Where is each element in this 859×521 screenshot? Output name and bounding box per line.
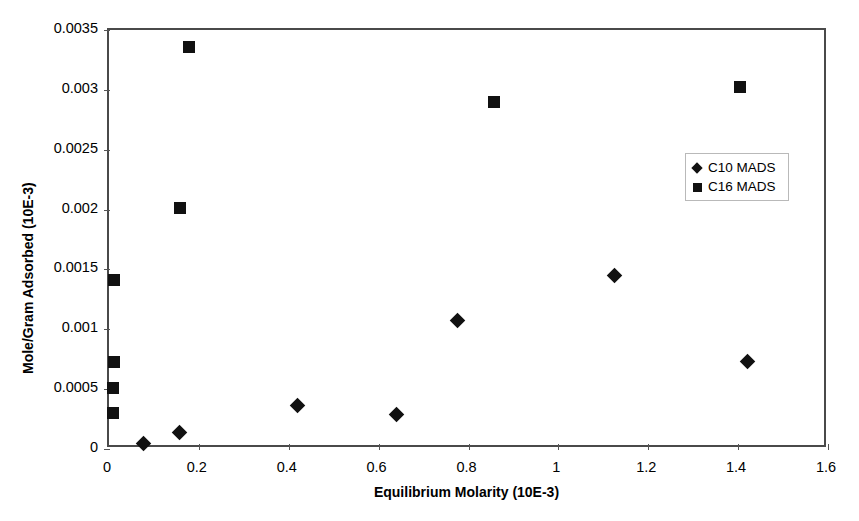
data-point-diamond bbox=[739, 354, 755, 370]
y-axis-tick bbox=[104, 389, 110, 390]
data-point-diamond bbox=[171, 424, 187, 440]
x-axis-tick-label: 1.2 bbox=[616, 460, 676, 475]
data-point-square bbox=[108, 274, 120, 286]
y-axis-tick bbox=[104, 449, 110, 450]
y-axis-tick-label: 0.0005 bbox=[12, 380, 98, 395]
data-point-diamond bbox=[607, 268, 623, 284]
y-axis-tick bbox=[104, 90, 110, 91]
data-point-diamond bbox=[389, 407, 405, 423]
y-axis-tick-label: 0.003 bbox=[12, 81, 98, 96]
y-axis-tick bbox=[104, 30, 110, 31]
legend-label-c16: C16 MADS bbox=[708, 180, 776, 194]
legend-item-c10[interactable]: C10 MADS bbox=[691, 158, 784, 177]
legend-item-c16[interactable]: C16 MADS bbox=[691, 177, 784, 196]
diamond-marker-icon bbox=[691, 161, 705, 175]
y-axis-tick-label: 0.002 bbox=[12, 201, 98, 216]
data-point-diamond bbox=[449, 313, 465, 329]
x-axis-tick-label: 0.4 bbox=[257, 460, 317, 475]
y-axis-tick bbox=[104, 210, 110, 211]
data-point-square bbox=[108, 356, 120, 368]
y-axis-tick bbox=[104, 269, 110, 270]
x-axis-tick bbox=[558, 444, 559, 450]
data-point-square bbox=[734, 81, 746, 93]
y-axis-tick-label: 0.0025 bbox=[12, 141, 98, 156]
y-axis-tick-label: 0.0035 bbox=[12, 21, 98, 36]
data-point-square bbox=[183, 41, 195, 53]
x-axis-tick bbox=[379, 444, 380, 450]
data-point-diamond bbox=[135, 435, 151, 451]
y-axis-tick-label: 0.001 bbox=[12, 320, 98, 335]
scatter-chart: Mole/Gram Adsorbed (10E-3) 00.00050.0010… bbox=[0, 0, 859, 521]
y-axis-tick-label: 0 bbox=[12, 440, 98, 455]
square-marker-icon bbox=[691, 180, 705, 194]
data-point-square bbox=[174, 202, 186, 214]
x-axis-tick bbox=[469, 444, 470, 450]
x-axis-tick-label: 0.2 bbox=[167, 460, 227, 475]
data-point-square bbox=[107, 407, 119, 419]
legend[interactable]: C10 MADS C16 MADS bbox=[685, 153, 789, 201]
x-axis-tick bbox=[289, 444, 290, 450]
plot-area: C10 MADS C16 MADS bbox=[107, 28, 826, 447]
x-axis-tick-label: 1 bbox=[526, 460, 586, 475]
data-point-square bbox=[107, 382, 119, 394]
x-axis-tick-label: 0.6 bbox=[347, 460, 407, 475]
legend-label-c10: C10 MADS bbox=[708, 161, 776, 175]
x-axis-tick bbox=[738, 444, 739, 450]
y-axis-tick-label: 0.0015 bbox=[12, 260, 98, 275]
x-axis-tick-label: 0.8 bbox=[437, 460, 497, 475]
x-axis-title: Equilibrium Molarity (10E-3) bbox=[107, 484, 826, 500]
data-point-diamond bbox=[290, 398, 306, 414]
x-axis-tick bbox=[828, 444, 829, 450]
y-axis-tick bbox=[104, 329, 110, 330]
data-point-square bbox=[488, 96, 500, 108]
x-axis-tick bbox=[199, 444, 200, 450]
x-axis-tick-label: 1.6 bbox=[796, 460, 856, 475]
x-axis-tick-label: 0 bbox=[77, 460, 137, 475]
y-axis-tick bbox=[104, 150, 110, 151]
x-axis-tick-label: 1.4 bbox=[706, 460, 766, 475]
x-axis-tick bbox=[648, 444, 649, 450]
